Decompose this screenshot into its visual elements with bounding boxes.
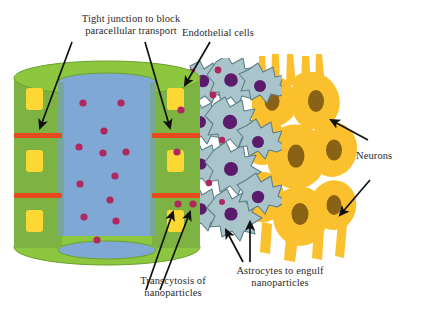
label-transcytosis: Transcytosis of nanoparticles	[118, 275, 228, 298]
neuron-nucleus	[308, 90, 324, 112]
nanoparticle	[206, 180, 212, 186]
nanoparticle	[122, 148, 129, 155]
figure-canvas: Tight junction to block paracellular tra…	[0, 0, 431, 316]
nanoparticle	[215, 67, 222, 74]
label-endothelial-cells: Endothelial cells	[182, 27, 302, 39]
neuron-nucleus	[327, 195, 342, 215]
astrocyte-nucleus	[224, 162, 238, 176]
tight-junction	[152, 193, 200, 198]
nanoparticle	[210, 92, 217, 99]
astrocyte-nucleus	[224, 207, 237, 220]
nanoparticle	[117, 99, 124, 106]
astrocyte-nucleus	[254, 80, 266, 92]
tight-junction	[14, 133, 62, 138]
nanoparticle	[80, 213, 87, 220]
nanoparticle	[106, 196, 113, 203]
neuron-nucleus	[292, 203, 309, 225]
nanoparticle	[93, 236, 100, 243]
astrocyte-nucleus	[252, 191, 264, 203]
vessel-lumen-body	[58, 82, 156, 236]
neuron-nucleus	[326, 140, 342, 161]
label-neurons: Neurons	[356, 150, 426, 162]
nanoparticle	[79, 99, 86, 106]
blood-vessel-cylinder	[14, 61, 200, 265]
endothelial-nucleus	[26, 88, 43, 110]
nanoparticle	[177, 106, 184, 113]
astrocyte-nucleus	[223, 115, 237, 129]
label-astrocytes: Astrocytes to engulf nanoparticles	[215, 265, 345, 288]
neuron-nucleus	[288, 145, 305, 168]
cylinder-base-lumen	[58, 241, 156, 259]
nanoparticle	[100, 127, 107, 134]
nanoparticle	[111, 172, 118, 179]
nanoparticle	[173, 148, 180, 155]
endothelial-nucleus	[26, 210, 43, 232]
tight-junction	[14, 193, 62, 198]
nanoparticle	[76, 180, 83, 187]
nanoparticle	[189, 200, 196, 207]
nanoparticle	[112, 217, 119, 224]
nanoparticle	[75, 143, 82, 150]
astrocyte-nucleus	[224, 73, 238, 87]
nanoparticle	[219, 199, 225, 205]
astrocyte-nucleus	[252, 136, 264, 148]
endothelial-nucleus	[26, 150, 43, 172]
tight-junction	[152, 133, 200, 138]
nanoparticle	[219, 137, 225, 143]
nanoparticle	[99, 149, 106, 156]
nanoparticle	[174, 200, 181, 207]
